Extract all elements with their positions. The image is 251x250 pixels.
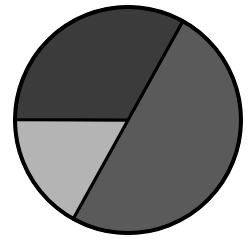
pie-chart (0, 0, 251, 250)
